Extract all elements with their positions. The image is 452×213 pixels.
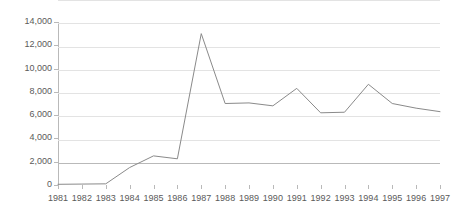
series-layer <box>0 0 452 213</box>
data-series-line <box>58 34 440 185</box>
line-chart: 02,0004,0006,0008,00010,00012,00014,000 … <box>0 0 452 213</box>
